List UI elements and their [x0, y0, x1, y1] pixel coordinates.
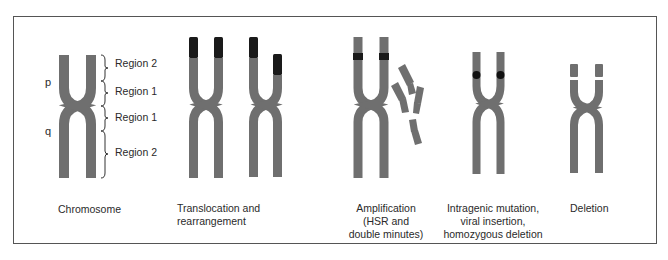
region-braces	[101, 55, 108, 178]
caption-translocation: Translocation and rearrangement	[177, 202, 260, 228]
region-label: Region 1	[115, 111, 157, 124]
amplification-chromosome	[353, 37, 389, 178]
fragment	[411, 130, 422, 145]
deleted-fragment	[595, 64, 603, 77]
fragment	[414, 86, 424, 104]
fragment	[398, 64, 414, 86]
hsr-band	[379, 53, 389, 60]
caption-deletion: Deletion	[570, 202, 609, 215]
deleted-fragment	[570, 64, 578, 77]
q-arm-label: q	[45, 125, 51, 138]
hsr-band	[353, 53, 363, 60]
fragment	[399, 98, 409, 113]
translocation-chromosome-2	[249, 37, 282, 177]
rearranged-marker	[273, 54, 282, 75]
chromosome-diagram	[0, 0, 668, 260]
region-label: Region 2	[115, 57, 157, 70]
translocation-marker	[214, 37, 223, 58]
mutation-dot	[497, 71, 505, 79]
region-label: Region 1	[115, 85, 157, 98]
fragment	[413, 102, 421, 114]
fragment	[409, 119, 418, 132]
translocation-marker	[249, 37, 258, 58]
normal-chromosome	[64, 55, 91, 178]
caption-chromosome: Chromosome	[58, 203, 121, 216]
intragenic-chromosome	[473, 52, 505, 174]
mutation-dot	[473, 71, 481, 79]
translocation-marker	[189, 37, 198, 58]
p-arm-label: p	[45, 76, 51, 89]
fragment	[407, 83, 416, 95]
caption-amplification: Amplification (HSR and double minutes)	[343, 202, 429, 241]
region-label: Region 2	[115, 146, 157, 159]
translocation-chromosome-1	[189, 37, 223, 178]
deletion-chromosome	[570, 64, 603, 173]
caption-intragenic: Intragenic mutation, viral insertion, ho…	[441, 202, 545, 241]
double-minute-fragments	[391, 64, 424, 145]
fragment	[391, 82, 406, 101]
